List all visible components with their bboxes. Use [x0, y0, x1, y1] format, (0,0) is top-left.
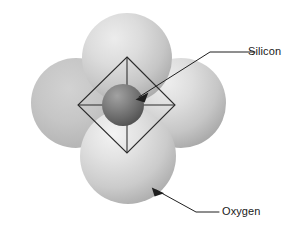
silicon-oxygen-tetrahedron-diagram: Silicon Oxygen — [0, 0, 306, 225]
silicon-sphere — [102, 84, 144, 126]
oxygen-label: Oxygen — [222, 205, 261, 217]
silicon-atom — [102, 84, 144, 126]
figure-container: Silicon Oxygen — [0, 0, 306, 225]
silicon-label: Silicon — [248, 45, 281, 57]
